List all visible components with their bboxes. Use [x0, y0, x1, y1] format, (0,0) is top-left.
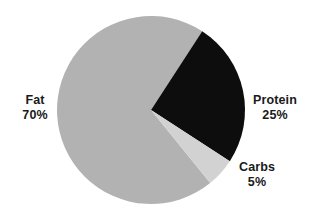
pie-label-fat-name: Fat: [4, 93, 66, 108]
pie-label-protein-value: 25%: [240, 108, 310, 123]
pie-label-fat-value: 70%: [4, 108, 66, 123]
pie-label-carbs: Carbs 5%: [224, 160, 290, 190]
pie-label-carbs-value: 5%: [224, 175, 290, 190]
pie-chart-figure: Fat 70% Protein 25% Carbs 5%: [0, 0, 312, 219]
pie-label-protein: Protein 25%: [240, 93, 310, 123]
pie-label-fat: Fat 70%: [4, 93, 66, 123]
pie-label-protein-name: Protein: [240, 93, 310, 108]
pie-label-carbs-name: Carbs: [224, 160, 290, 175]
